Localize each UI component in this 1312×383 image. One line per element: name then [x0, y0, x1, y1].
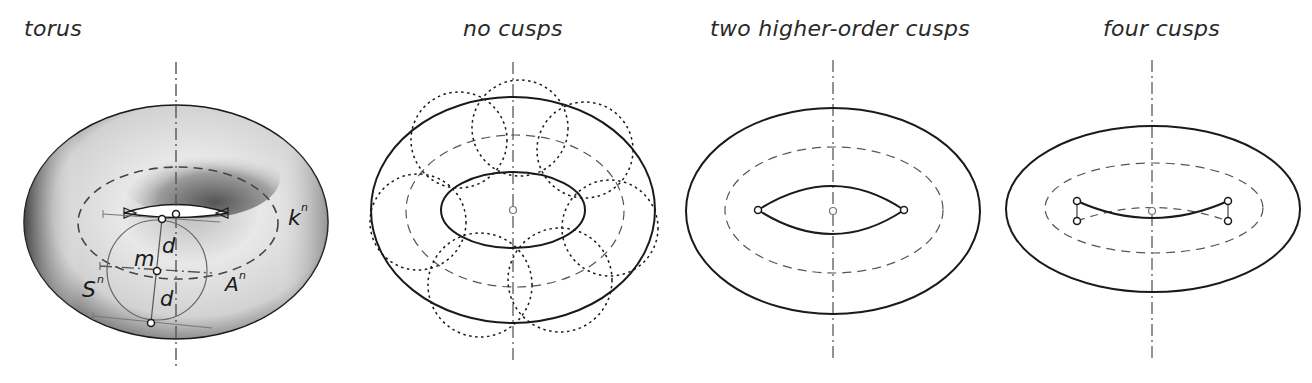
center-point: [1149, 208, 1156, 215]
cusp-right: [901, 207, 908, 214]
panel-two-cusps: two higher-order cusps: [670, 0, 990, 383]
point-upper: [159, 216, 166, 223]
no-cusps-illustration: [340, 0, 670, 383]
cusp-right-top: [1225, 198, 1232, 205]
point-lower: [148, 320, 155, 327]
panel-torus: torus: [0, 0, 340, 383]
two-cusps-illustration: [670, 0, 990, 383]
center-point: [510, 207, 517, 214]
label-m: m: [134, 247, 154, 271]
cusp-left: [755, 207, 762, 214]
panel-four-cusps: four cusps: [990, 0, 1312, 383]
label-d-upper: d: [162, 234, 176, 258]
label-k-sup: n: [301, 201, 308, 214]
cusp-right-bottom: [1225, 218, 1232, 225]
panel-no-cusps: no cusps: [340, 0, 670, 383]
label-S-sup: n: [97, 273, 104, 286]
center-point: [830, 208, 837, 215]
four-cusps-illustration: [990, 0, 1312, 383]
label-A-sup: n: [239, 269, 246, 282]
point-top-axis: [173, 211, 180, 218]
torus-illustration: d m d k n A n S n: [0, 0, 340, 383]
label-k: k: [288, 205, 302, 230]
point-center-m: [154, 268, 161, 275]
label-d-lower: d: [160, 287, 174, 311]
cusp-left-bottom: [1074, 218, 1081, 225]
cusp-left-top: [1074, 198, 1081, 205]
label-S: S: [82, 277, 96, 302]
label-A: A: [223, 272, 239, 296]
